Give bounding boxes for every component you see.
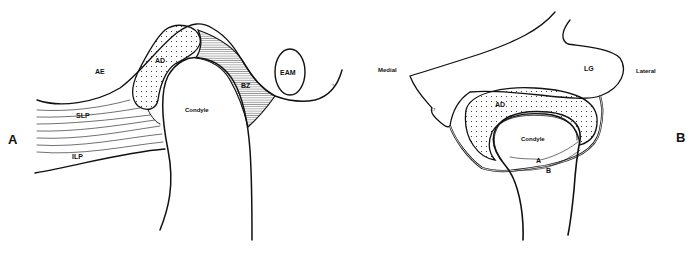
label-eam: EAM bbox=[280, 69, 296, 76]
label-medial: Medial bbox=[378, 67, 397, 73]
condyle-outline-b bbox=[493, 112, 580, 240]
label-slp: SLP bbox=[76, 112, 90, 119]
label-ad: AD bbox=[155, 57, 165, 64]
tmj-diagram bbox=[0, 0, 695, 255]
panel-a-label: A bbox=[8, 133, 17, 146]
label-ad-b: AD bbox=[495, 101, 505, 108]
small-mark: ᐧ> bbox=[331, 83, 334, 87]
arrow-a bbox=[510, 142, 578, 160]
label-arrow-a: A bbox=[536, 157, 541, 164]
label-arrow-b: B bbox=[546, 167, 551, 174]
label-ilp: ILP bbox=[72, 153, 83, 160]
label-bz: BZ bbox=[241, 82, 250, 89]
label-ae: AE bbox=[95, 68, 105, 75]
label-lt: LT bbox=[431, 108, 435, 112]
label-lg: LG bbox=[584, 65, 594, 72]
label-lateral: Lateral bbox=[636, 68, 656, 74]
panel-b-drawing bbox=[410, 12, 623, 240]
articular-disc bbox=[133, 25, 201, 109]
articular-disc-b bbox=[465, 88, 597, 160]
panel-b-label: B bbox=[676, 131, 685, 144]
slp-fiber bbox=[37, 115, 150, 124]
panel-a-drawing bbox=[35, 24, 342, 240]
label-condyle-a: Condyle bbox=[185, 107, 209, 113]
label-condyle-b: Condyle bbox=[521, 136, 545, 142]
